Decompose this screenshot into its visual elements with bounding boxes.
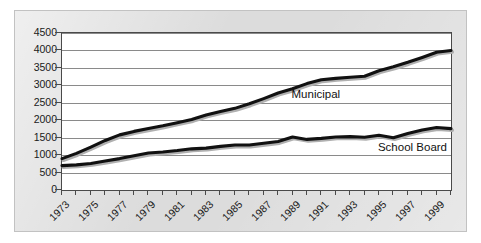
x-axis-tick [436, 191, 437, 195]
x-axis-tick [61, 191, 62, 195]
plot-area [61, 32, 452, 191]
x-axis-tick [277, 191, 278, 195]
x-axis-tick [90, 191, 91, 195]
annotation-municipal: Municipal [292, 88, 341, 100]
y-axis-label: 1000 [34, 148, 57, 160]
annotation-school-board: School Board [378, 141, 447, 153]
x-axis-tick [147, 191, 148, 195]
x-axis-tick [450, 191, 451, 195]
x-axis-tick [320, 191, 321, 195]
x-axis-tick [75, 191, 76, 195]
chart-figure: 050010001500200025003000350040004500 197… [0, 0, 481, 243]
x-axis-tick [392, 191, 393, 195]
x-axis-tick [364, 191, 365, 195]
x-axis-tick [162, 191, 163, 195]
x-axis-tick [407, 191, 408, 195]
x-axis-tick [292, 191, 293, 195]
x-axis-tick [306, 191, 307, 195]
x-axis-tick [191, 191, 192, 195]
x-axis-tick [378, 191, 379, 195]
y-axis-label: 3500 [34, 61, 57, 73]
x-axis-tick [219, 191, 220, 195]
x-axis-tick [119, 191, 120, 195]
x-axis-tick [248, 191, 249, 195]
x-axis-tick [176, 191, 177, 195]
x-axis-tick [349, 191, 350, 195]
y-axis-label: 2000 [34, 113, 57, 125]
x-axis-tick [421, 191, 422, 195]
series-lines [62, 33, 451, 190]
y-axis-label: 2500 [34, 96, 57, 108]
x-axis-tick [104, 191, 105, 195]
x-axis-tick [335, 191, 336, 195]
y-axis-label: 3000 [34, 78, 57, 90]
y-axis-label: 4000 [34, 43, 57, 55]
y-axis-labels: 050010001500200025003000350040004500 [14, 32, 57, 191]
y-axis-label: 4500 [34, 26, 57, 38]
y-axis-label: 1500 [34, 131, 57, 143]
x-axis-tick [263, 191, 264, 195]
x-axis-tick [133, 191, 134, 195]
x-axis-tick [205, 191, 206, 195]
x-axis-tick [234, 191, 235, 195]
